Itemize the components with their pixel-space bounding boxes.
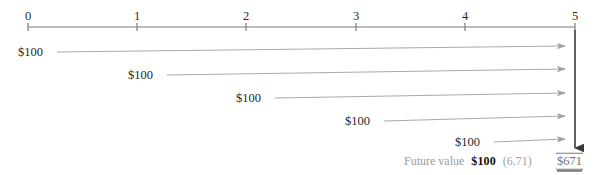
cash-flow-arrow-period-4 [494, 139, 565, 142]
cash-flow-label-period-3: $100 [345, 115, 370, 128]
future-value-payment: $100 [471, 154, 495, 168]
cash-flow-arrow-period-1 [167, 69, 565, 75]
figure-vector-layer [0, 0, 598, 175]
timeline-axis-group [28, 23, 575, 31]
cash-flow-timeline-figure: 012345 $100$100$100$100$100 Future value… [0, 0, 598, 175]
tick-label-3: 3 [353, 10, 359, 23]
cash-flow-label-period-0: $100 [18, 46, 43, 59]
future-value-caption: Future value [404, 154, 464, 168]
tick-label-2: 2 [243, 10, 249, 23]
future-value-summary-row: Future value $100 (6.71) [404, 155, 532, 167]
cash-flow-arrows-group [57, 46, 565, 142]
cash-flow-arrow-period-2 [275, 93, 565, 98]
cash-flow-label-period-4: $100 [455, 136, 480, 149]
cash-flow-label-period-1: $100 [128, 69, 153, 82]
tick-label-0: 0 [25, 10, 31, 23]
tick-label-4: 4 [462, 10, 468, 23]
cash-flow-arrow-period-0 [57, 46, 565, 52]
future-value-total-text: $671 [556, 155, 583, 170]
future-value-total: $671 [556, 153, 583, 170]
cash-flow-arrow-period-3 [384, 116, 565, 121]
cash-flow-label-period-2: $100 [236, 92, 261, 105]
future-value-factor: (6.71) [500, 154, 532, 168]
tick-label-5: 5 [572, 10, 578, 23]
tick-label-1: 1 [134, 10, 140, 23]
